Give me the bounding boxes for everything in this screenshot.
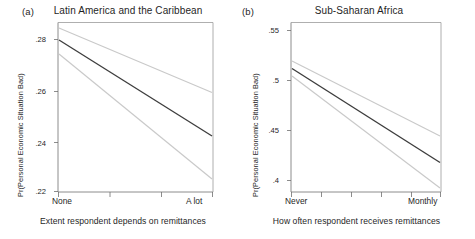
panel-title-a: Latin America and the Caribbean bbox=[48, 5, 208, 16]
ci-upper-line-b bbox=[292, 61, 440, 136]
y-tick-label-b-2: .45 bbox=[259, 126, 279, 135]
y-tick-label-b-0: .55 bbox=[259, 26, 279, 35]
ci-lower-line-b bbox=[292, 76, 440, 188]
x-tick-label-b-left: Never bbox=[285, 196, 307, 206]
fit-line-b bbox=[292, 69, 440, 163]
y-tick-label-a-2: .24 bbox=[26, 139, 46, 148]
panel-sub-saharan-africa: (b) Sub-Saharan Africa Pr(Personal Econo… bbox=[237, 0, 475, 239]
ci-upper-line-a bbox=[59, 28, 212, 93]
x-tick-label-a-left: None bbox=[52, 196, 72, 206]
plot-area-b bbox=[281, 22, 457, 210]
x-tick-label-a-right: A lot bbox=[186, 196, 202, 206]
plot-area-a bbox=[48, 22, 220, 210]
y-tick-label-b-1: .5 bbox=[259, 76, 279, 85]
y-tick-label-a-3: .22 bbox=[26, 187, 46, 196]
x-axis-label-a: Extent respondent depends on remittances bbox=[18, 216, 228, 226]
panel-tag-b: (b) bbox=[242, 6, 254, 17]
panel-title-b: Sub-Saharan Africa bbox=[279, 5, 439, 16]
fit-line-a bbox=[59, 40, 212, 136]
y-axis-label-a: Pr(Personal Economic Situation Bad) bbox=[16, 73, 25, 197]
panel-tag-a: (a) bbox=[22, 6, 34, 17]
x-tick-label-b-right: Monthly bbox=[408, 196, 437, 206]
y-tick-label-a-1: .26 bbox=[26, 87, 46, 96]
y-tick-label-a-0: .28 bbox=[26, 35, 46, 44]
x-axis-label-b: How often respondent receives remittance… bbox=[249, 216, 464, 226]
panel-latin-america: (a) Latin America and the Caribbean Pr(P… bbox=[0, 0, 238, 239]
y-tick-label-b-3: .4 bbox=[259, 176, 279, 185]
figure-root: (a) Latin America and the Caribbean Pr(P… bbox=[0, 0, 475, 239]
ci-lower-line-a bbox=[59, 54, 212, 179]
